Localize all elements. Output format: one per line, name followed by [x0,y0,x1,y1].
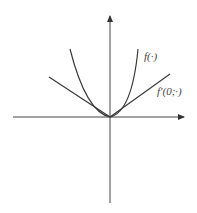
function-label: f(·) [144,50,157,62]
function-curve [70,49,138,117]
directional-derivative-label: f′(0;·) [157,85,182,97]
diagram-canvas [0,0,197,213]
